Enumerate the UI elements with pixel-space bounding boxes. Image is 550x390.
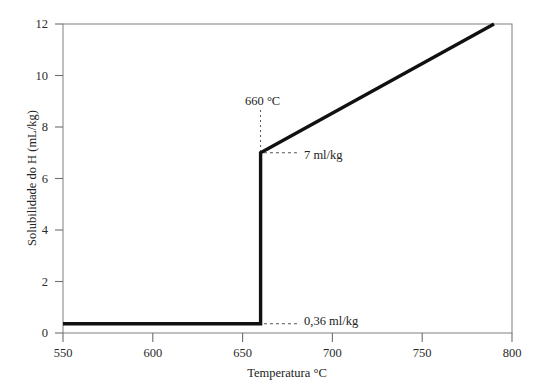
y-axis-title: Solubilidade do H (mL/kg) — [25, 110, 40, 246]
solubility-plot — [0, 0, 550, 390]
x-tick-label-800: 800 — [503, 346, 522, 361]
y-tick-label-12: 12 — [22, 17, 48, 32]
chart-figure: 0 2 4 6 8 10 12 550 600 650 700 750 800 … — [0, 0, 550, 390]
liquid-value-annotation: 7 ml/kg — [304, 148, 343, 163]
y-tick-label-2: 2 — [30, 274, 48, 289]
x-tick-label-750: 750 — [413, 346, 432, 361]
x-tick-label-550: 550 — [54, 346, 73, 361]
x-axis-title: Temperatura °C — [247, 366, 326, 381]
y-axis-ticks — [55, 24, 63, 333]
x-axis-ticks — [63, 333, 512, 342]
x-tick-label-650: 650 — [233, 346, 252, 361]
plot-frame — [63, 24, 512, 333]
y-tick-label-10: 10 — [22, 68, 48, 83]
solid-value-annotation: 0,36 ml/kg — [304, 314, 358, 329]
x-tick-label-600: 600 — [143, 346, 162, 361]
x-tick-label-700: 700 — [323, 346, 342, 361]
melting-point-annotation: 660 °C — [245, 94, 280, 109]
y-tick-label-0: 0 — [30, 326, 48, 341]
